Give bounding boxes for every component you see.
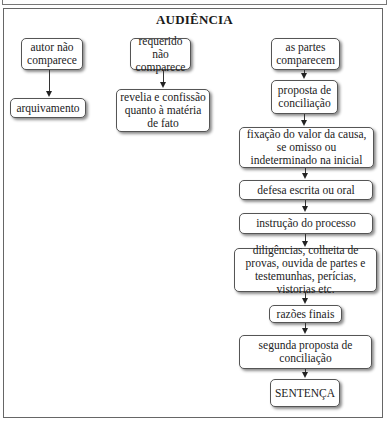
node-label: requerido não comparece [134,35,187,74]
node-partes-comparecem: as partes comparecem [271,38,340,70]
node-label: segunda proposta de conciliação [243,339,368,365]
node-label: instrução do processo [256,217,356,230]
node-label: defesa escrita ou oral [257,184,354,197]
node-razoes-finais: razões finais [269,305,342,323]
arrow-down-icon [302,372,308,378]
arrow-down-icon [160,82,166,88]
node-autor-nao-comparece: autor não comparece [21,38,83,70]
node-label: autor não comparece [25,41,79,67]
node-arquivamento: arquivamento [10,98,86,118]
node-label: arquivamento [16,102,79,115]
arrow-down-icon [301,120,307,126]
node-segunda-proposta: segunda proposta de conciliação [239,335,372,369]
arrow-down-icon [301,73,307,79]
node-label: diligências, colheita de provas, ouvida … [238,244,373,296]
node-proposta-conciliacao: proposta de conciliação [271,80,338,114]
arrow-down-icon [46,91,52,97]
connector-line [49,70,50,92]
arrow-down-icon [302,206,308,212]
arrow-down-icon [302,173,308,179]
arrow-down-icon [302,298,308,304]
top-strip-border [2,0,387,5]
node-defesa: defesa escrita ou oral [239,180,373,200]
node-label: as partes comparecem [275,41,336,67]
node-instrucao-processo: instrução do processo [239,213,373,234]
node-sentenca: SENTENÇA [270,379,340,407]
node-fixacao-valor-causa: fixação do valor da causa, se omisso ou … [239,127,374,168]
node-requerido-nao-comparece: requerido não comparece [130,38,191,70]
node-label: razões finais [277,308,335,321]
node-label: fixação do valor da causa, se omisso ou … [243,128,370,167]
arrow-down-icon [302,328,308,334]
node-diligencias: diligências, colheita de provas, ouvida … [234,248,377,292]
node-label: SENTENÇA [275,387,335,400]
node-label: revelia e confissão quanto à matéria de … [120,91,206,130]
diagram-title: AUDIÊNCIA [0,12,389,28]
node-label: proposta de conciliação [275,84,334,110]
node-revelia: revelia e confissão quanto à matéria de … [116,89,210,132]
